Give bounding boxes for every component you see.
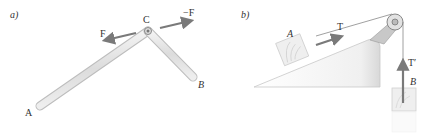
- inclined-plane: [254, 39, 380, 87]
- diagram-canvas: a) C F −F A B b): [0, 0, 427, 139]
- label-b: B: [198, 79, 204, 90]
- label-block-a: A: [286, 28, 294, 39]
- figure-b: b) T T′ A B: [241, 9, 416, 132]
- label-neg-f: −F: [183, 7, 195, 18]
- panel-label-a: a): [10, 9, 19, 21]
- label-t: T: [337, 21, 343, 32]
- panel-label-b: b): [241, 9, 250, 21]
- label-block-b: B: [410, 76, 416, 87]
- label-t-prime: T′: [408, 57, 416, 68]
- force-neg-f-arrow: [160, 21, 190, 28]
- label-f: F: [100, 28, 106, 39]
- figure-a: a) C F −F A B: [10, 7, 204, 118]
- label-c: C: [143, 14, 150, 25]
- tension-t-arrow: [316, 37, 340, 45]
- label-a: A: [25, 107, 33, 118]
